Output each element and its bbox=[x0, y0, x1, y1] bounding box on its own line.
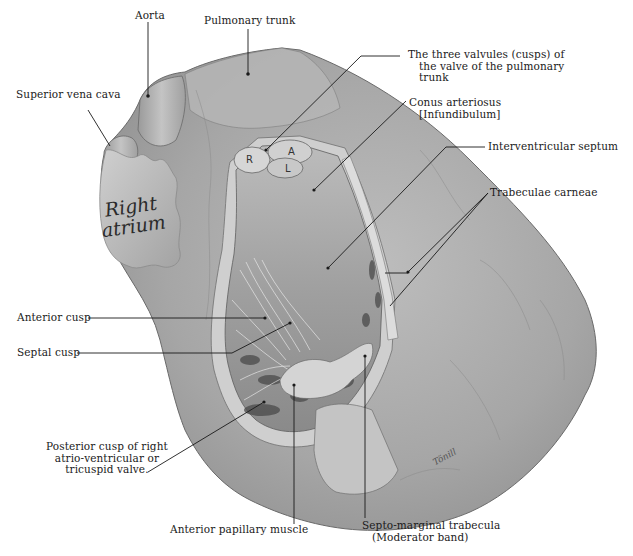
cusp-letter-a: A bbox=[288, 146, 295, 157]
label-pulmonary-trunk: Pulmonary trunk bbox=[204, 15, 295, 27]
cusp-letter-l: L bbox=[285, 163, 291, 174]
label-septo-marginal-trabecula: Septo-marginal trabecula (Moderator band… bbox=[362, 520, 500, 543]
label-superior-vena-cava: Superior vena cava bbox=[16, 89, 121, 101]
right-atrium-text: Right atrium bbox=[98, 192, 167, 241]
label-posterior-cusp: Posterior cusp of right atrio-ventricula… bbox=[46, 441, 168, 476]
label-septal-cusp: Septal cusp bbox=[17, 347, 80, 359]
cusp-letter-r: R bbox=[246, 154, 253, 165]
label-conus-arteriosus: Conus arteriosus [Infundibulum] bbox=[409, 97, 501, 120]
aorta-shape bbox=[138, 76, 185, 146]
label-anterior-papillary-muscle: Anterior papillary muscle bbox=[170, 524, 308, 536]
label-anterior-cusp: Anterior cusp bbox=[17, 312, 91, 324]
label-trabeculae-carneae: Trabeculae carneae bbox=[490, 187, 597, 199]
label-aorta: Aorta bbox=[135, 10, 165, 22]
heart-illustration: Right atrium R A L Tönill Aorta Pulmonar… bbox=[0, 0, 633, 556]
label-pulmonary-valvules: The three valvules (cusps) of the valve … bbox=[408, 49, 564, 84]
label-interventricular-septum: Interventricular septum bbox=[488, 141, 618, 153]
